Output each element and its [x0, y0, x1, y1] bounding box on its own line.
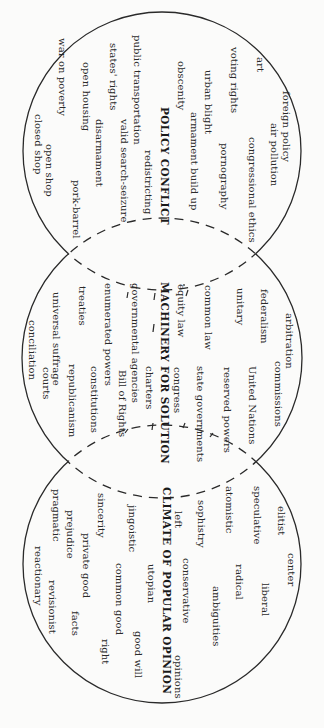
machinery-term: governmental agencies [130, 283, 141, 403]
policy-term: pornography [219, 143, 230, 209]
policy-term: states' rights [108, 43, 119, 110]
policy-term: foreign policy [281, 91, 292, 162]
climate-term: prejudice [65, 510, 76, 559]
policy-term: obscenity [176, 61, 187, 110]
policy-term: closed shop [33, 114, 44, 175]
climate-heading: CLIMATE OF POPULAR OPINION [161, 487, 172, 694]
policy-term: voting rights [229, 47, 240, 113]
machinery-term: federalism [259, 289, 270, 344]
machinery-term: republicanism [67, 364, 78, 437]
machinery-term: Bill of Rights [117, 370, 128, 437]
policy-term: pork-barrel [71, 180, 82, 239]
machinery-term: charters [144, 366, 155, 409]
venn-diagram: POLICY CONFLICTforeign policyair polluti… [0, 0, 324, 728]
policy-term: art [255, 57, 266, 72]
machinery-term: courts [41, 367, 52, 400]
climate-term: pragmatic [51, 489, 62, 542]
machinery-term: United Nations [247, 366, 258, 445]
climate-term: jingoistic [127, 505, 138, 552]
climate-term: sophistry [196, 500, 207, 548]
policy-term: urban blight [203, 70, 214, 134]
climate-term: atomistic [224, 486, 235, 534]
policy-heading: POLICY CONFLICT [159, 107, 170, 225]
machinery-term: common law [203, 285, 214, 350]
machinery-term: unitary [235, 288, 246, 325]
policy-term: public transportation [132, 35, 143, 145]
climate-term: opinions [173, 655, 184, 699]
climate-term: radical [234, 564, 245, 600]
machinery-term: arbitration [284, 313, 295, 369]
machinery-term: reserved powers [222, 367, 233, 453]
climate-term: speculative [252, 486, 263, 545]
machinery-term: equity law [176, 284, 187, 338]
machinery-term: conciliation [27, 320, 38, 380]
connector-mark [153, 324, 154, 332]
machinery-term: state governments [195, 366, 206, 462]
climate-term: conservative [181, 558, 192, 624]
policy-term: congressional ethics [247, 137, 258, 243]
policy-term: open housing [81, 62, 92, 131]
policy-term: open shop [44, 144, 55, 197]
machinery-heading: MACHINERY FOR SOLUTION [159, 282, 170, 464]
climate-term: utopian [146, 564, 157, 603]
climate-term: right [100, 639, 111, 664]
climate-term: reactionary [33, 546, 44, 605]
policy-term: valid search-seizure [119, 119, 130, 222]
climate-term: elitist [276, 506, 287, 535]
policy-term: air pollution [269, 123, 280, 186]
policy-term: redistricting [143, 150, 154, 214]
machinery-term: congress [172, 367, 183, 413]
connector-mark [127, 292, 128, 298]
connector-mark [152, 423, 153, 430]
climate-term: center [286, 553, 297, 586]
machinery-term: enumerated powers [103, 283, 114, 386]
machinery-term: constitutions [89, 366, 100, 433]
climate-term: sincerity [96, 493, 107, 538]
climate-term: left [173, 511, 184, 528]
climate-term: ambiguities [211, 586, 222, 646]
climate-term: facts [70, 611, 81, 636]
climate-term: common good [114, 563, 125, 635]
climate-term: private good [81, 533, 92, 598]
climate-term: good will [133, 631, 144, 678]
climate-term: revisionist [47, 580, 58, 634]
policy-term: disarmament [94, 119, 105, 187]
connector-mark [154, 293, 155, 300]
policy-term: war on poverty [57, 38, 68, 116]
climate-term: liberal [260, 583, 271, 616]
policy-term: armament build up [189, 112, 200, 211]
machinery-term: universal suffrage [51, 292, 62, 386]
machinery-term: treaties [77, 286, 88, 326]
machinery-term: commissions [273, 361, 284, 427]
